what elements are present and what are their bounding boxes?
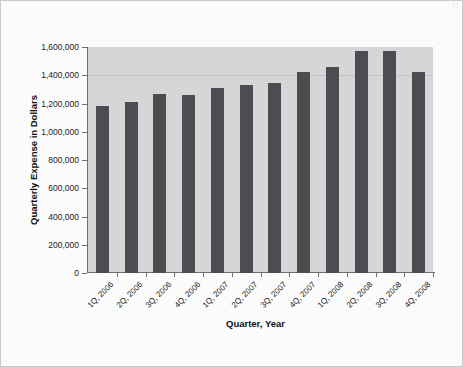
bar <box>182 95 195 273</box>
y-axis-tick-label: 0 <box>0 268 79 278</box>
y-axis-tick <box>82 188 87 189</box>
x-axis-tick <box>433 273 434 277</box>
x-axis-tick <box>404 273 405 277</box>
x-axis-tick <box>347 273 348 277</box>
gridline <box>88 75 433 76</box>
x-axis-tick <box>146 273 147 277</box>
bar <box>412 72 425 273</box>
y-axis-tick <box>82 160 87 161</box>
y-axis-tick <box>82 217 87 218</box>
bar <box>297 72 310 273</box>
x-axis-title: Quarter, Year <box>0 318 463 329</box>
bar <box>326 67 339 273</box>
y-axis-tick <box>82 47 87 48</box>
y-axis-tick <box>82 104 87 105</box>
y-axis-line <box>87 47 88 273</box>
bar <box>96 106 109 273</box>
bar <box>268 83 281 273</box>
y-axis-title: Quarterly Expense in Dollars <box>28 55 42 265</box>
y-axis-tick <box>82 273 87 274</box>
x-axis-tick <box>232 273 233 277</box>
chart-screenshot: |) 0200,000400,000600,000800,0001,000,00… <box>0 0 463 367</box>
x-axis-tick <box>318 273 319 277</box>
x-axis-tick <box>203 273 204 277</box>
y-axis-tick <box>82 75 87 76</box>
x-axis-tick <box>376 273 377 277</box>
x-axis-tick <box>289 273 290 277</box>
x-axis-tick <box>174 273 175 277</box>
y-axis-tick <box>82 132 87 133</box>
bar <box>153 94 166 273</box>
y-axis-tick <box>82 245 87 246</box>
x-axis-tick <box>117 273 118 277</box>
x-axis-tick <box>261 273 262 277</box>
plot-area-background <box>88 47 433 273</box>
bar-chart-figure: 0200,000400,000600,000800,0001,000,0001,… <box>0 0 463 367</box>
bar <box>240 85 253 273</box>
bar <box>383 51 396 273</box>
y-axis-tick-label: 1,600,000 <box>0 42 79 52</box>
bar <box>125 102 138 273</box>
bar <box>355 51 368 273</box>
bar <box>211 88 224 273</box>
